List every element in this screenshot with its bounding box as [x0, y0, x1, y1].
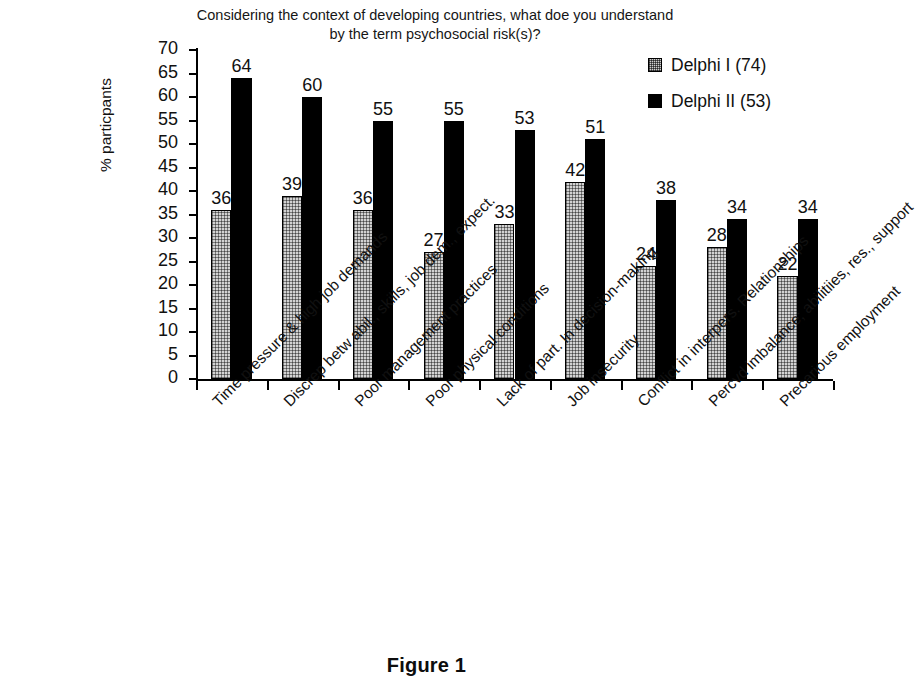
bar-value-label: 36 — [353, 188, 373, 208]
y-axis-tick: 0 — [189, 378, 196, 380]
y-axis-tick-label: 60 — [132, 85, 178, 105]
y-axis-line — [196, 48, 198, 381]
y-axis-tick: 45 — [189, 167, 196, 169]
y-axis-tick: 55 — [189, 120, 196, 122]
bar-value-label: 33 — [494, 202, 514, 222]
y-axis-tick-label: 55 — [132, 109, 178, 129]
y-axis-tick-label: 15 — [132, 297, 178, 317]
bar-value-label: 60 — [302, 75, 322, 95]
y-axis-tick: 40 — [189, 190, 196, 192]
y-axis-tick-label: 0 — [132, 367, 178, 387]
y-axis-tick-label: 10 — [132, 320, 178, 340]
y-axis-tick-label: 20 — [132, 273, 178, 293]
bar-delphi-2[interactable]: 51 — [585, 139, 605, 379]
x-axis-tick — [267, 381, 269, 390]
bar-delphi-1[interactable]: 42 — [565, 182, 585, 379]
y-axis-tick-label: 50 — [132, 132, 178, 152]
bar-value-label: 55 — [373, 99, 393, 119]
x-axis-tick — [691, 381, 693, 390]
bar-value-label: 38 — [656, 178, 676, 198]
chart-title-line-1: Considering the context of developing co… — [197, 7, 673, 23]
y-axis-tick: 25 — [189, 261, 196, 263]
bar-value-label: 55 — [444, 99, 464, 119]
x-axis-tick — [408, 381, 410, 390]
bar-value-label: 51 — [585, 117, 605, 137]
x-axis-tick — [833, 381, 835, 390]
y-axis-tick: 60 — [189, 96, 196, 98]
x-axis-tick — [338, 381, 340, 390]
bar-value-label: 36 — [211, 188, 231, 208]
bar-delphi-2[interactable]: 53 — [515, 130, 535, 379]
bar-delphi-1[interactable]: 33 — [494, 224, 514, 379]
y-axis-tick: 50 — [189, 143, 196, 145]
y-axis-tick-label: 70 — [132, 38, 178, 58]
bar-delphi-1[interactable]: 39 — [282, 196, 302, 379]
y-axis-tick: 20 — [189, 284, 196, 286]
figure-caption: Figure 1 — [0, 654, 853, 677]
bar-value-label: 34 — [798, 197, 818, 217]
x-axis-tick — [621, 381, 623, 390]
bar-delphi-2[interactable]: 64 — [231, 78, 251, 379]
bar-value-label: 34 — [727, 197, 747, 217]
chart-title: Considering the context of developing co… — [170, 6, 700, 44]
bar-delphi-2[interactable]: 38 — [656, 200, 676, 379]
bar-value-label: 64 — [231, 56, 251, 76]
y-axis-tick: 15 — [189, 308, 196, 310]
bar-value-label: 42 — [565, 160, 585, 180]
y-axis-tick-label: 40 — [132, 179, 178, 199]
x-axis-tick — [196, 381, 198, 390]
bar-value-label: 39 — [282, 174, 302, 194]
y-axis-tick-label: 45 — [132, 156, 178, 176]
y-axis-tick: 30 — [189, 237, 196, 239]
y-axis-tick-label: 25 — [132, 250, 178, 270]
bar-delphi-2[interactable]: 60 — [302, 97, 322, 379]
bar-delphi-1[interactable]: 36 — [211, 210, 231, 379]
bar-value-label: 53 — [515, 108, 535, 128]
y-axis-tick: 65 — [189, 73, 196, 75]
bar-delphi-1[interactable]: 24 — [636, 266, 656, 379]
y-axis-tick: 5 — [189, 355, 196, 357]
x-axis-tick — [479, 381, 481, 390]
y-axis-tick: 10 — [189, 331, 196, 333]
x-axis-tick — [762, 381, 764, 390]
y-axis-tick: 70 — [189, 49, 196, 51]
y-axis-tick-label: 65 — [132, 62, 178, 82]
y-axis-tick-label: 35 — [132, 203, 178, 223]
y-axis-tick: 35 — [189, 214, 196, 216]
y-axis-tick-label: 30 — [132, 226, 178, 246]
y-axis-tick-label: 5 — [132, 344, 178, 364]
bar-value-label: 28 — [707, 225, 727, 245]
y-axis-title: % particpants — [97, 0, 119, 172]
chart-title-line-2: by the term psychosocial risk(s)? — [170, 25, 700, 44]
x-axis-tick — [550, 381, 552, 390]
